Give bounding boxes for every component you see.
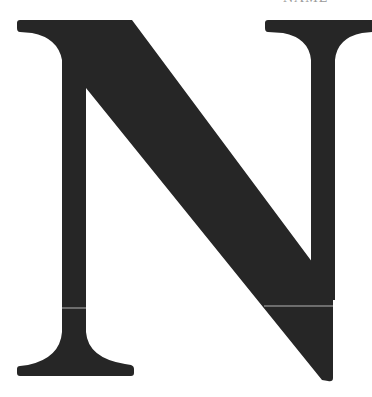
letter-n-glyph xyxy=(0,0,372,397)
letter-n-left-stem xyxy=(17,88,134,376)
